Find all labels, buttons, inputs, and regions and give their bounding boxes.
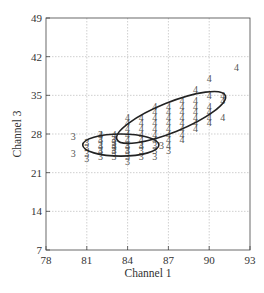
- data-points: 3333333333333333333333333333344444444444…: [71, 62, 239, 167]
- y-tick-label: 14: [31, 205, 43, 217]
- point-label-class-4: 4: [180, 134, 185, 145]
- y-tick-label: 35: [31, 89, 43, 101]
- x-tick-label: 93: [245, 254, 257, 266]
- point-label-class-3: 3: [71, 148, 76, 159]
- x-tick-label: 81: [81, 254, 92, 266]
- x-axis-label: Channel 1: [125, 267, 172, 279]
- y-tick-label: 7: [37, 244, 43, 256]
- grid-lines: [46, 18, 250, 250]
- confidence-ellipse-class-3: [83, 134, 159, 156]
- point-label-class-4: 4: [166, 140, 171, 151]
- y-tick-label: 42: [31, 51, 42, 63]
- point-label-class-3: 3: [139, 151, 144, 162]
- x-tick-label: 90: [204, 254, 216, 266]
- x-tick-label: 84: [122, 254, 134, 266]
- y-axis-label: Channel 3: [11, 110, 23, 157]
- point-label-class-3: 3: [152, 151, 157, 162]
- point-label-class-4: 4: [125, 145, 130, 156]
- x-tick-label: 78: [41, 254, 53, 266]
- point-label-class-3: 3: [84, 153, 89, 164]
- point-label-class-4: 4: [207, 117, 212, 128]
- x-tick-label: 87: [163, 254, 175, 266]
- point-label-class-4: 4: [193, 123, 198, 134]
- scatter-chart: 7881848790937142128354249 33333333333333…: [0, 0, 264, 293]
- point-label-class-3: 3: [71, 131, 76, 142]
- point-label-class-4: 4: [234, 62, 239, 73]
- y-tick-label: 28: [31, 128, 43, 140]
- point-label-class-3: 3: [125, 156, 130, 167]
- y-tick-label: 49: [31, 12, 43, 24]
- point-label-class-4: 4: [207, 73, 212, 84]
- point-label-class-4: 4: [220, 112, 225, 123]
- point-label-class-4: 4: [112, 145, 117, 156]
- point-label-class-3: 3: [159, 140, 164, 151]
- y-tick-label: 21: [31, 167, 42, 179]
